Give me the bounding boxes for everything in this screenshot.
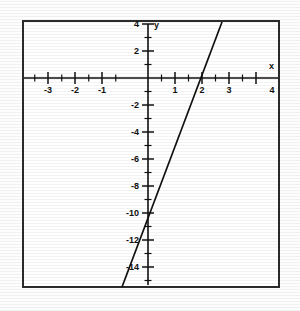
x-tick-label--2: -2 xyxy=(71,86,79,95)
x-tick-label--3: -3 xyxy=(44,86,52,95)
x-tick-label-3: 3 xyxy=(226,86,231,95)
x-tick-label-1: 1 xyxy=(172,86,177,95)
x-tick-label--1: -1 xyxy=(98,86,106,95)
x-axis-group xyxy=(24,72,278,84)
y-tick-label--6: -6 xyxy=(117,155,139,164)
y-tick-label--12: -12 xyxy=(111,236,139,245)
y-tick-label--10: -10 xyxy=(111,209,139,218)
y-tick-label--2: -2 xyxy=(117,101,139,110)
x-tick-label-2: 2 xyxy=(199,86,204,95)
x-axis-label: x xyxy=(269,61,274,71)
graph-page: -3 -2 -1 1 2 3 4 4 2 -2 -4 -6 -8 -10 -12… xyxy=(0,0,300,311)
y-axis-label: y xyxy=(154,20,159,30)
y-tick-label-2: 2 xyxy=(121,47,139,56)
y-tick-label-4: 4 xyxy=(121,20,139,29)
y-axis-group xyxy=(142,24,154,285)
y-tick-label--8: -8 xyxy=(117,182,139,191)
x-tick-label-4: 4 xyxy=(269,86,274,95)
y-tick-label--14: -14 xyxy=(111,263,139,272)
graph-canvas xyxy=(0,0,300,311)
y-tick-label--4: -4 xyxy=(117,128,139,137)
